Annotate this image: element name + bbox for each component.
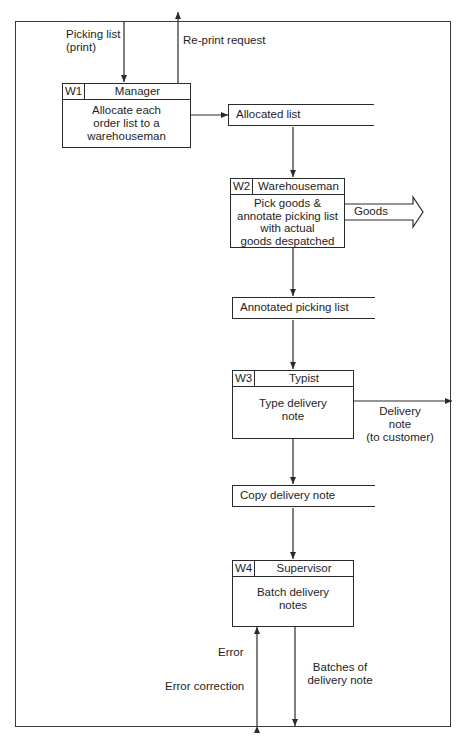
process-description: Batch delivery notes: [233, 577, 353, 612]
process-id: W1: [63, 84, 85, 99]
process-description: Allocate each order list to a warehousem…: [63, 100, 190, 143]
store-annotated-picking-list[interactable]: Annotated picking list: [232, 297, 375, 319]
process-id: W4: [233, 561, 255, 576]
process-role: Supervisor: [255, 561, 353, 576]
process-w4-supervisor[interactable]: W4Supervisor Batch delivery notes: [232, 560, 354, 627]
error-label: Error: [218, 646, 244, 659]
error-correction-label: Error correction: [165, 680, 244, 693]
process-role: Manager: [85, 84, 190, 99]
picking-list-label: Picking list (print): [66, 28, 120, 54]
store-copy-delivery-note[interactable]: Copy delivery note: [232, 485, 375, 507]
batches-label: Batches of delivery note: [300, 661, 380, 687]
process-role: Typist: [255, 371, 353, 386]
store-allocated-list[interactable]: Allocated list: [228, 104, 374, 126]
process-description: Pick goods & annotate picking list with …: [231, 195, 344, 247]
delivery-note-label: Delivery note (to customer): [360, 405, 440, 444]
process-w2-warehouseman[interactable]: W2Warehouseman Pick goods & annotate pic…: [230, 178, 345, 248]
process-w3-typist[interactable]: W3Typist Type delivery note: [232, 370, 354, 439]
goods-label: Goods: [354, 205, 388, 218]
process-role: Warehouseman: [253, 179, 344, 194]
process-id: W2: [231, 179, 253, 194]
reprint-request-label: Re-print request: [183, 34, 265, 47]
process-description: Type delivery note: [233, 387, 353, 423]
process-w1-manager[interactable]: W1Manager Allocate each order list to a …: [62, 83, 191, 148]
process-id: W3: [233, 371, 255, 386]
